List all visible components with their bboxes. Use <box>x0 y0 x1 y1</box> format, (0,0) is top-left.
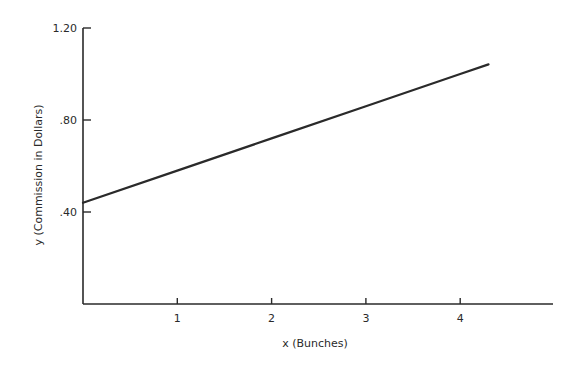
x-tick-label: 4 <box>457 312 464 325</box>
x-tick-label: 2 <box>268 312 275 325</box>
plot-area <box>83 64 488 202</box>
chart: .40.801.201234 x (Bunches) y (Commission… <box>0 0 576 377</box>
y-tick-label: .40 <box>60 206 78 219</box>
y-tick-label: .80 <box>60 114 78 127</box>
commission-line <box>83 64 488 202</box>
x-axis-label: x (Bunches) <box>282 337 348 350</box>
x-tick-label: 3 <box>362 312 369 325</box>
y-axis-label: y (Commission in Dollars) <box>32 104 45 245</box>
x-tick-label: 1 <box>174 312 181 325</box>
y-tick-label: 1.20 <box>53 22 78 35</box>
